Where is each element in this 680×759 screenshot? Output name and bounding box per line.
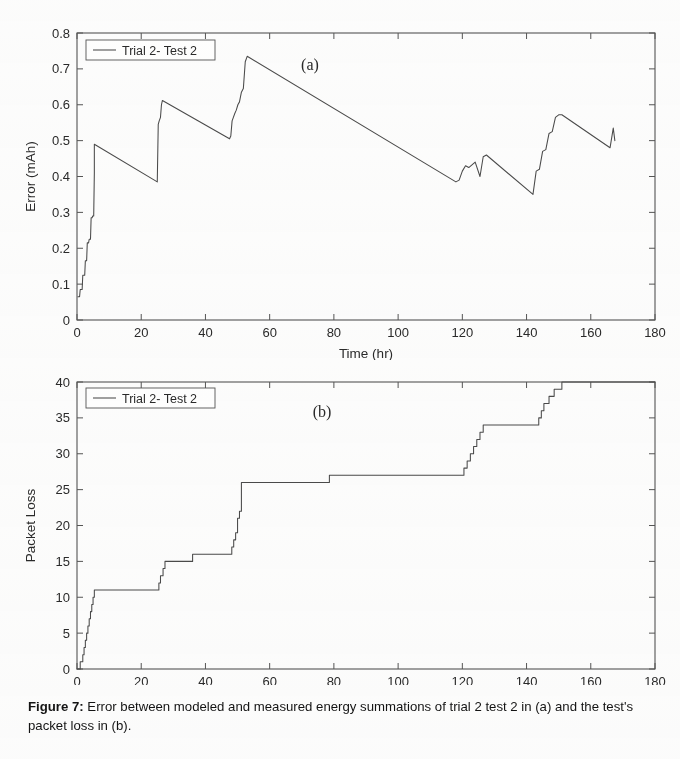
plot-frame (77, 382, 655, 669)
figure-page: 02040608010012014016018000.10.20.30.40.5… (0, 0, 680, 759)
figure-number: Figure 7: (28, 699, 84, 714)
x-tick-label: 140 (516, 325, 538, 340)
error-chart-svg: 02040608010012014016018000.10.20.30.40.5… (0, 0, 680, 360)
x-tick-label: 20 (134, 674, 148, 685)
y-tick-label: 0 (63, 662, 70, 677)
x-tick-label: 80 (327, 674, 341, 685)
x-tick-label: 160 (580, 325, 602, 340)
x-tick-label: 100 (387, 325, 409, 340)
x-tick-label: 120 (451, 325, 473, 340)
figure-caption-text: Error between modeled and measured energ… (28, 699, 633, 733)
plot-frame (77, 33, 655, 320)
y-tick-label: 5 (63, 626, 70, 641)
y-tick-label: 0.8 (52, 26, 70, 41)
y-tick-label: 0.1 (52, 277, 70, 292)
y-tick-label: 35 (56, 410, 70, 425)
y-tick-label: 0 (63, 313, 70, 328)
y-tick-label: 15 (56, 554, 70, 569)
panel-letter: (a) (301, 56, 319, 74)
data-series-line (77, 382, 655, 669)
y-tick-label: 20 (56, 518, 70, 533)
chart-panel-b: 0204060801001201401601800510152025303540… (0, 355, 680, 685)
y-axis-title: Packet Loss (23, 488, 38, 562)
chart-panel-a: 02040608010012014016018000.10.20.30.40.5… (0, 0, 680, 360)
legend-label: Trial 2- Test 2 (122, 392, 197, 406)
x-tick-label: 60 (262, 674, 276, 685)
x-tick-label: 160 (580, 674, 602, 685)
x-tick-label: 100 (387, 674, 409, 685)
x-tick-label: 120 (451, 674, 473, 685)
y-tick-label: 25 (56, 482, 70, 497)
panel-letter: (b) (313, 403, 332, 421)
data-series-line (78, 56, 615, 296)
y-axis-title: Error (mAh) (23, 141, 38, 212)
y-tick-label: 0.7 (52, 61, 70, 76)
packet-loss-chart-svg: 0204060801001201401601800510152025303540… (0, 355, 680, 685)
legend-label: Trial 2- Test 2 (122, 44, 197, 58)
x-tick-label: 180 (644, 325, 666, 340)
y-tick-label: 0.4 (52, 169, 70, 184)
x-tick-label: 0 (73, 674, 80, 685)
x-tick-label: 40 (198, 674, 212, 685)
y-tick-label: 0.2 (52, 241, 70, 256)
x-tick-label: 80 (327, 325, 341, 340)
x-tick-label: 60 (262, 325, 276, 340)
x-tick-label: 180 (644, 674, 666, 685)
y-tick-label: 0.3 (52, 205, 70, 220)
x-tick-label: 0 (73, 325, 80, 340)
x-tick-label: 40 (198, 325, 212, 340)
y-tick-label: 10 (56, 590, 70, 605)
y-tick-label: 0.5 (52, 133, 70, 148)
figure-caption: Figure 7: Error between modeled and meas… (28, 698, 656, 735)
x-tick-label: 20 (134, 325, 148, 340)
y-tick-label: 40 (56, 375, 70, 390)
y-tick-label: 0.6 (52, 97, 70, 112)
y-tick-label: 30 (56, 446, 70, 461)
x-tick-label: 140 (516, 674, 538, 685)
